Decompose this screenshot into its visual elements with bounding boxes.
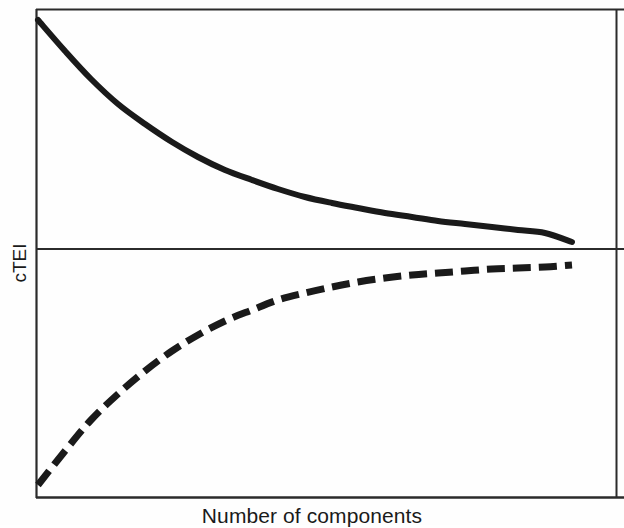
x-axis-label: Number of components <box>0 504 624 528</box>
plot-frame <box>36 9 624 498</box>
series-line-decreasing <box>38 20 572 242</box>
y-axis-label: cTEI <box>9 231 31 295</box>
series-line-increasing <box>38 265 572 485</box>
